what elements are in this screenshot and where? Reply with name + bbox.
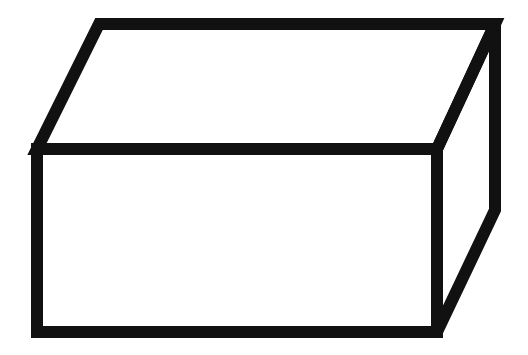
front-face — [37, 149, 437, 332]
box-drawing — [0, 0, 528, 355]
box-diagram — [0, 0, 528, 355]
top-face — [37, 24, 495, 149]
side-face — [437, 24, 495, 332]
